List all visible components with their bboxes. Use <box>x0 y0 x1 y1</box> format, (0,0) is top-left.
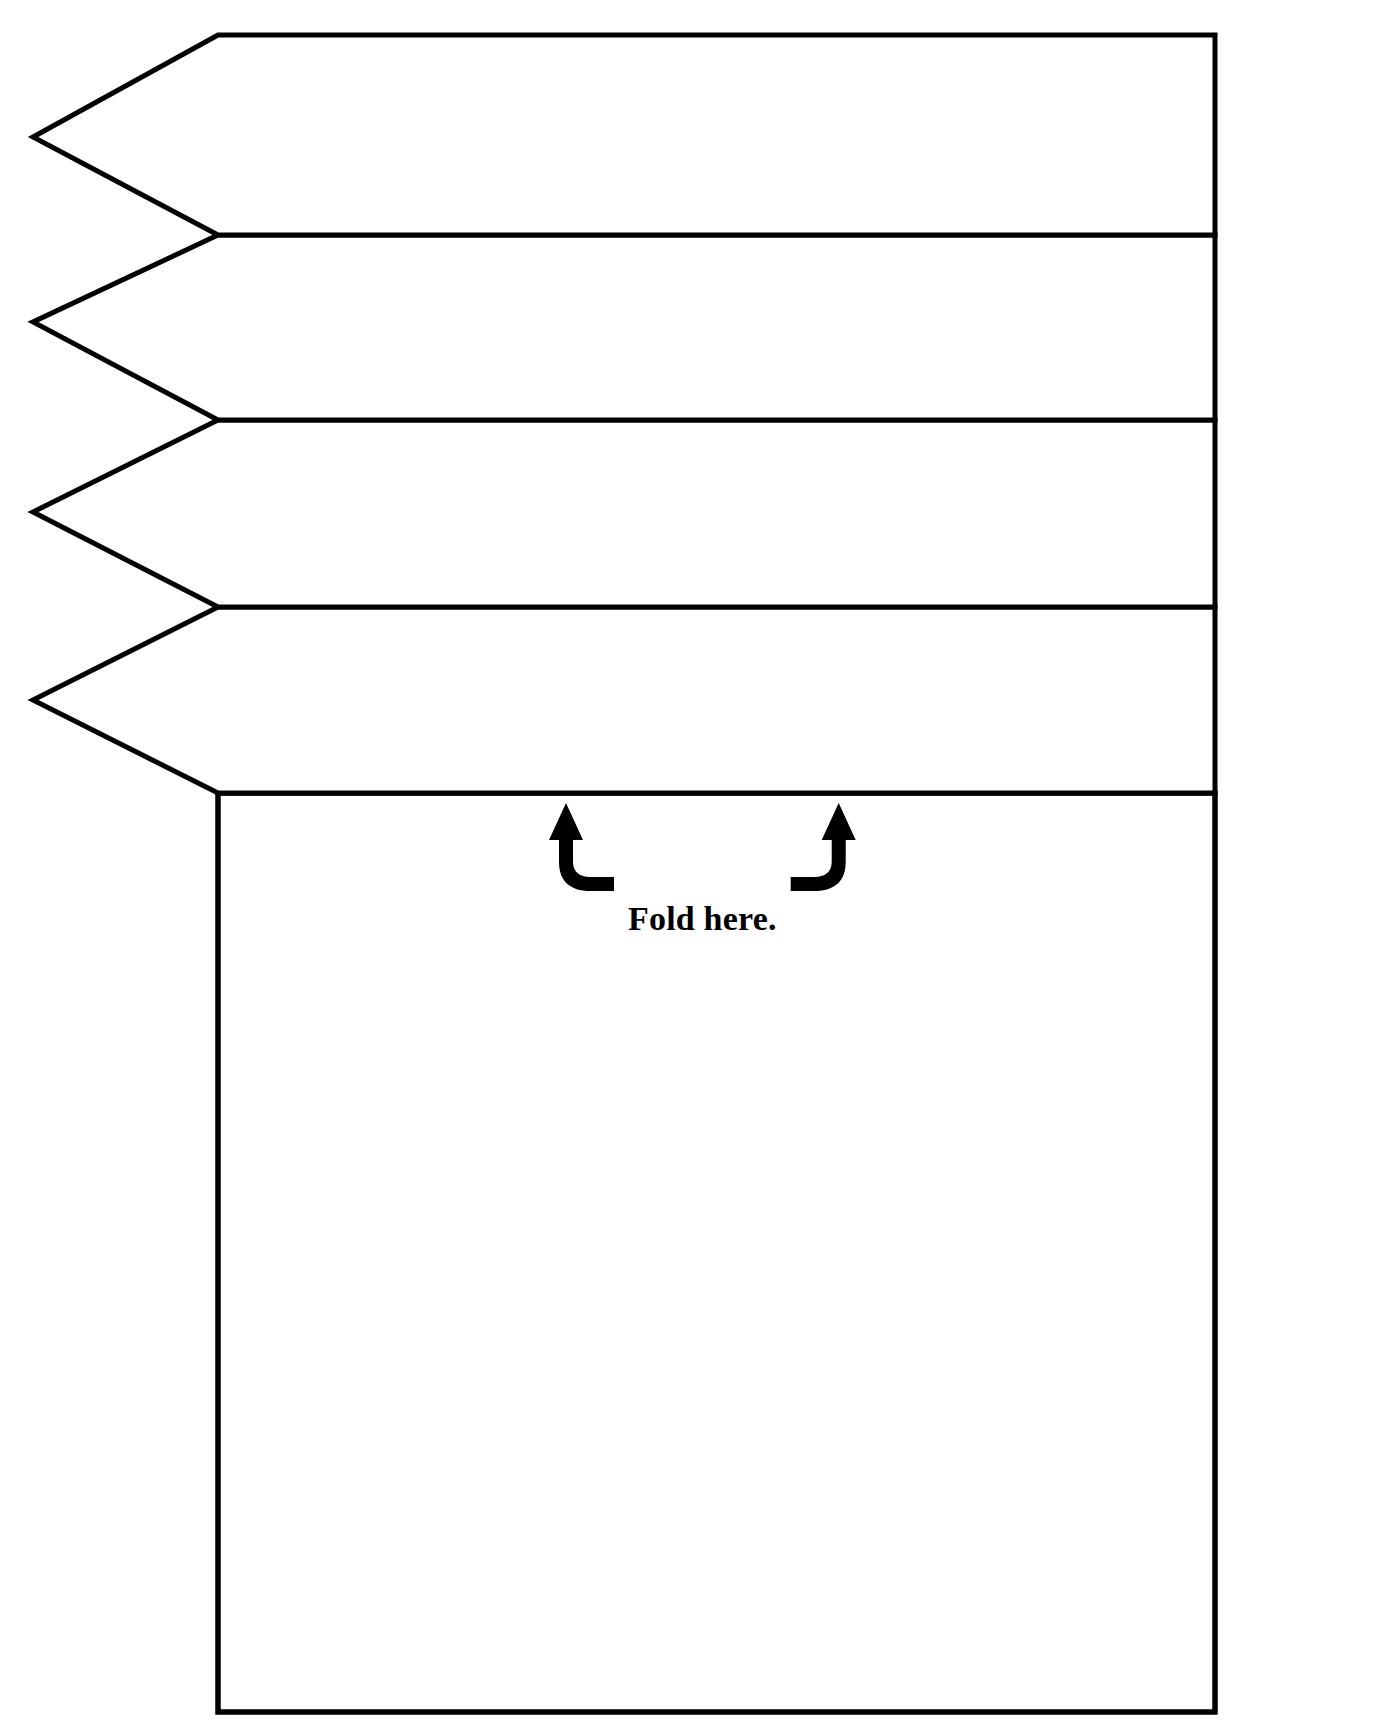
flap-band-2[interactable] <box>33 235 1215 420</box>
flap-band-1[interactable] <box>33 35 1215 235</box>
flap-band-4[interactable] <box>33 607 1215 793</box>
worksheet-drawing: Fold here. <box>0 0 1378 1736</box>
flap-band-3[interactable] <box>33 420 1215 607</box>
worksheet-page: Fold here. <box>0 0 1378 1736</box>
fold-here-label: Fold here. <box>628 900 777 937</box>
